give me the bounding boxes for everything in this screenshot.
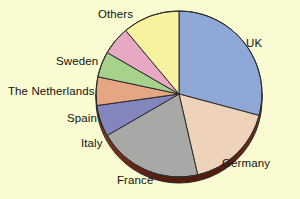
pie-label-france: France <box>117 175 153 187</box>
pie-label-uk: UK <box>246 38 262 50</box>
pie-chart: UK Germany France Italy Spain The Nether… <box>0 0 300 199</box>
pie-slices <box>96 11 262 177</box>
pie-label-the-netherlands: The Netherlands <box>8 86 95 98</box>
pie-label-others: Others <box>98 9 133 21</box>
pie-label-spain: Spain <box>67 113 97 125</box>
pie-label-sweden: Sweden <box>56 56 98 68</box>
pie-label-italy: Italy <box>81 138 103 150</box>
pie-label-germany: Germany <box>222 158 270 170</box>
